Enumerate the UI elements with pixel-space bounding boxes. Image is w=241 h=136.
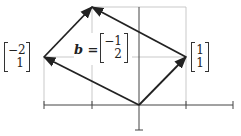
v1-bottom: 1 — [195, 57, 204, 70]
v2-bottom: 1 — [8, 57, 24, 70]
vector-label-v2: −2 1 — [4, 42, 30, 72]
arrow-v1 — [139, 57, 186, 105]
vector-label-b: b = −1 2 — [74, 33, 132, 65]
b-bottom: 2 — [104, 48, 122, 61]
vector-label-v1: 1 1 — [191, 42, 209, 72]
b-prefix: b = — [74, 42, 99, 57]
